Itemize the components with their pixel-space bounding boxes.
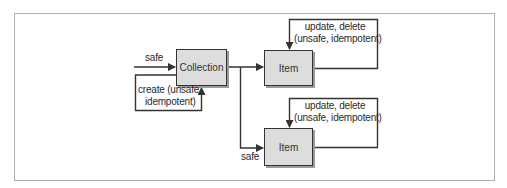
label-create-loop: create (unsafe, idempotent) (138, 84, 202, 108)
label-create-line2: idempotent) (138, 96, 202, 108)
label-create-line1: create (unsafe, (138, 84, 202, 96)
label-safe-to-item-bottom: safe (241, 151, 259, 163)
label-safe-into-collection: safe (145, 52, 163, 64)
label-item-bottom-line2: (unsafe, idempotent) (294, 112, 376, 124)
edge-collection-to-item-bottom (241, 67, 264, 148)
label-item-top-line1: update, delete (294, 21, 376, 33)
node-item-top-label: Item (279, 63, 298, 74)
label-item-bottom-loop: update, delete (unsafe, idempotent) (294, 100, 376, 124)
label-item-top-loop: update, delete (unsafe, idempotent) (294, 21, 376, 45)
node-item-bottom: Item (264, 128, 313, 166)
node-item-top: Item (264, 50, 313, 86)
node-collection-label: Collection (180, 62, 224, 73)
node-item-bottom-label: Item (279, 142, 298, 153)
label-item-top-line2: (unsafe, idempotent) (294, 33, 376, 45)
diagram-canvas: Collection Item Item safe create (unsafe… (0, 0, 507, 188)
label-item-bottom-line1: update, delete (294, 100, 376, 112)
node-collection: Collection (176, 49, 227, 86)
